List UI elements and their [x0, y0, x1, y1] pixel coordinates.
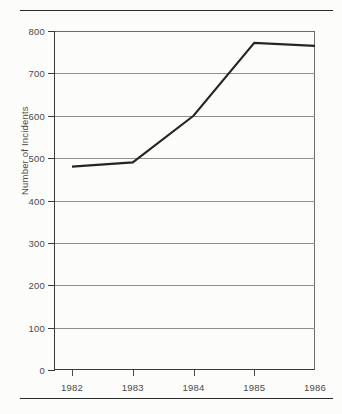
x-axis-tick-label: 1985: [243, 382, 265, 393]
x-axis-tick: [194, 370, 195, 376]
y-axis-tick-label: 100: [29, 322, 45, 333]
x-axis-tick: [133, 370, 134, 376]
series-line-group: [54, 31, 315, 370]
y-axis-tick-label: 500: [29, 153, 45, 164]
page-rule-bottom: [20, 398, 333, 399]
y-axis-tick-label: 200: [29, 280, 45, 291]
y-axis-tick-label: 0: [40, 365, 45, 376]
x-axis-tick: [254, 370, 255, 376]
x-axis-tick-label: 1984: [183, 382, 205, 393]
y-axis-tick: [48, 370, 55, 371]
y-axis-tick-label: 600: [29, 110, 45, 121]
x-axis-tick-label: 1986: [304, 382, 326, 393]
series-line-incidents: [72, 43, 315, 167]
page-rule-top: [20, 10, 333, 11]
chart-plot-area: 0100200300400500600700800 19821983198419…: [54, 31, 315, 370]
y-axis-tick-label: 800: [29, 26, 45, 37]
x-axis-tick: [72, 370, 73, 376]
x-axis-tick-label: 1983: [122, 382, 144, 393]
y-axis-tick-label: 700: [29, 68, 45, 79]
y-axis-tick-label: 400: [29, 195, 45, 206]
x-axis-tick-label: 1982: [61, 382, 83, 393]
y-axis-tick-label: 300: [29, 237, 45, 248]
